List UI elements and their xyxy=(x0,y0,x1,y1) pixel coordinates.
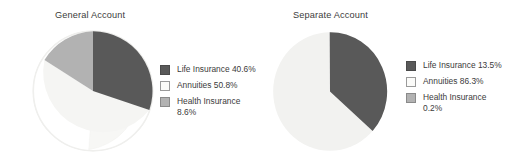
legend-item-annuities[interactable]: Annuities 50.8% xyxy=(160,80,256,91)
pie-chart-general-account xyxy=(32,30,154,152)
legend-swatch-life-insurance-icon xyxy=(160,65,170,75)
legend-item-health-insurance[interactable]: Health Insurance 0.2% xyxy=(406,92,502,113)
legend-item-health-insurance[interactable]: Health Insurance 8.6% xyxy=(160,96,256,117)
legend-swatch-life-insurance-icon xyxy=(406,61,416,71)
pie-svg-general xyxy=(32,30,154,152)
legend-swatch-annuities-icon xyxy=(406,77,416,87)
legend-label-life-insurance: Life Insurance 40.6% xyxy=(177,64,256,75)
legend-separate-account: Life Insurance 13.5% Annuities 86.3% Hea… xyxy=(406,60,502,113)
legend-item-life-insurance[interactable]: Life Insurance 40.6% xyxy=(160,64,256,75)
panel-separate-account: Separate Account Life Insurance 13.5% xyxy=(265,0,531,164)
legend-label-health-insurance: Health Insurance 8.6% xyxy=(177,96,240,117)
dual-pie-chart-figure: General Account L xyxy=(0,0,531,164)
legend-swatch-annuities-icon xyxy=(160,81,170,91)
panel-general-account: General Account L xyxy=(0,0,266,164)
legend-item-life-insurance[interactable]: Life Insurance 13.5% xyxy=(406,60,502,71)
pie-chart-separate-account xyxy=(272,31,388,152)
legend-general-account: Life Insurance 40.6% Annuities 50.8% Hea… xyxy=(160,64,256,117)
legend-label-health-insurance: Health Insurance 0.2% xyxy=(423,92,486,113)
pie-svg-separate xyxy=(272,31,388,152)
chart-title-separate-account: Separate Account xyxy=(293,10,368,20)
legend-swatch-health-insurance-icon xyxy=(160,97,170,107)
pie-body-separate xyxy=(272,31,388,152)
legend-swatch-health-insurance-icon xyxy=(406,93,416,103)
pie-body-general xyxy=(32,30,154,152)
legend-label-annuities: Annuities 50.8% xyxy=(177,80,238,91)
legend-item-annuities[interactable]: Annuities 86.3% xyxy=(406,76,502,87)
legend-label-annuities: Annuities 86.3% xyxy=(423,76,484,87)
chart-title-general-account: General Account xyxy=(55,10,125,20)
legend-label-life-insurance: Life Insurance 13.5% xyxy=(423,60,502,71)
